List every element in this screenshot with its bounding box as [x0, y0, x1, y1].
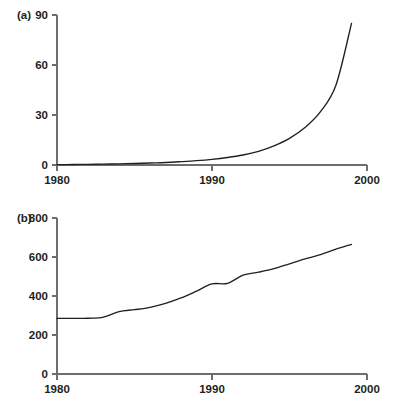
chart-b-xlabel-1980: 1980: [44, 383, 70, 395]
chart-a-svg: (a) 90 60 30 0 1980 1990 2000: [0, 0, 394, 205]
chart-b-xlabel-2000: 2000: [354, 383, 380, 395]
chart-a-xlabel-1990: 1990: [199, 174, 225, 186]
chart-b-data-line: [57, 244, 352, 318]
chart-a-data-line: [57, 23, 352, 164]
chart-b-ylabel-600: 600: [29, 251, 48, 263]
chart-a-ylabel-60: 60: [35, 59, 48, 71]
chart-a-ylabel-30: 30: [35, 109, 48, 121]
chart-a-ylabel-0: 0: [42, 159, 48, 171]
chart-b-ylabel-200: 200: [29, 329, 48, 341]
chart-b-ylabel-0: 0: [42, 368, 48, 380]
chart-b-xlabel-1990: 1990: [199, 383, 225, 395]
chart-panel-b: (b) 800 600 400 200 0 1980 1990 2000: [0, 200, 394, 411]
chart-panel-a: (a) 90 60 30 0 1980 1990 2000: [0, 0, 394, 205]
chart-b-svg: (b) 800 600 400 200 0 1980 1990 2000: [0, 200, 394, 411]
chart-a-xlabel-2000: 2000: [354, 174, 380, 186]
chart-a-ylabel-90: 90: [35, 9, 48, 21]
chart-b-ylabel-800: 800: [29, 212, 48, 224]
chart-a-xlabel-1980: 1980: [44, 174, 70, 186]
figure-two-line-charts: (a) 90 60 30 0 1980 1990 2000: [0, 0, 394, 411]
chart-b-ylabel-400: 400: [29, 290, 48, 302]
panel-a-label: (a): [17, 9, 31, 21]
